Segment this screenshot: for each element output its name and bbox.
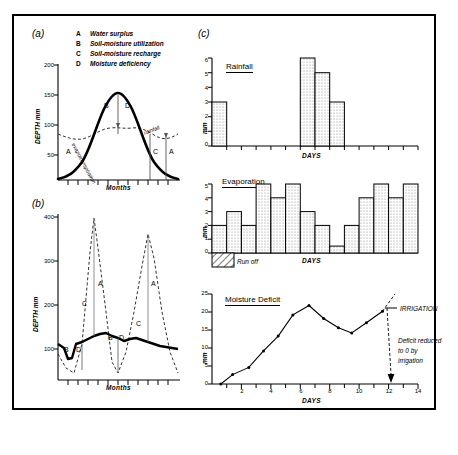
- panel-b-zone-b1: B: [64, 346, 69, 353]
- panel-b-zone-d2: D: [119, 334, 124, 341]
- panel-b-zone-c2: C: [136, 320, 141, 327]
- deficit-reduced-line3: irrigation: [398, 356, 423, 365]
- runoff-label: Run off: [237, 257, 258, 266]
- deficit-reduced-line2: to 0 by: [398, 346, 418, 355]
- panel-a: (a) A Water surplus B Soil-moisture util…: [14, 16, 192, 192]
- panel-a-zone-d: D: [125, 102, 130, 109]
- rainfall-chart: [192, 16, 438, 166]
- panel-b-zone-d1: D: [76, 346, 81, 353]
- deficit-xtick-2: 2: [233, 388, 251, 394]
- panel-b-zone-a2: A: [151, 280, 156, 287]
- panel-b-zone-a1: A: [98, 280, 103, 287]
- deficit-xtick-4: 4: [262, 388, 280, 394]
- panel-a-zone-a-right: A: [169, 148, 174, 155]
- figure-frame: (a) A Water surplus B Soil-moisture util…: [12, 14, 436, 410]
- panel-a-xlabel: Months: [106, 184, 131, 191]
- deficit-xtick-10: 10: [350, 388, 368, 394]
- deficit-reduced-line1: Deficit reduced: [398, 336, 441, 345]
- panel-a-zone-c: C: [153, 148, 158, 155]
- deficit-xtick-14: 14: [409, 388, 427, 394]
- deficit-xtick-6: 6: [292, 388, 310, 394]
- evaporation-xlabel: DAYS: [302, 257, 321, 264]
- deficit-xtick-8: 8: [321, 388, 339, 394]
- panel-b-plot: [14, 192, 192, 408]
- panel-c: (c) Rainfall mm 6 5 4 3 2 1 0: [192, 16, 438, 412]
- evaporation-chart: [192, 171, 438, 286]
- panel-b-xlabel: Months: [106, 384, 131, 391]
- rainfall-xlabel: DAYS: [302, 152, 321, 159]
- panel-b-zone-c1: C: [82, 300, 87, 307]
- panel-a-zone-a-left: A: [66, 148, 71, 155]
- deficit-xlabel: DAYS: [302, 397, 321, 404]
- panel-a-plot: [14, 16, 192, 192]
- panel-a-zone-b: B: [104, 102, 109, 109]
- panel-b: (b) DEPTH mm 400 300 200 100: [14, 192, 192, 408]
- panel-b-zone-b2: B: [108, 334, 113, 341]
- deficit-xtick-12: 12: [380, 388, 398, 394]
- irrigation-annotation: IRRIGATION: [400, 304, 437, 313]
